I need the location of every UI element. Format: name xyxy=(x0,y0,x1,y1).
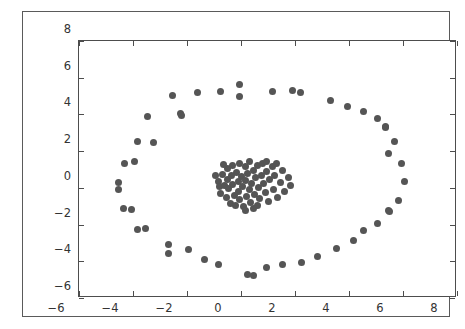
scatter-point xyxy=(263,264,270,271)
x-tick-mark xyxy=(79,291,80,296)
x-tick-mark xyxy=(187,291,188,296)
scatter-point xyxy=(201,256,208,263)
scatter-point xyxy=(128,206,135,213)
y-tick-label: 0 xyxy=(64,169,71,183)
y-tick-mark xyxy=(79,41,84,42)
scatter-point xyxy=(285,174,292,181)
scatter-point xyxy=(217,88,224,95)
y-tick-mark xyxy=(450,114,455,115)
scatter-point xyxy=(287,182,294,189)
scatter-point xyxy=(212,172,219,179)
scatter-point xyxy=(327,97,334,104)
scatter-point xyxy=(242,207,249,214)
scatter-point xyxy=(281,188,288,195)
y-tick-mark xyxy=(450,298,455,299)
scatter-point xyxy=(298,259,305,266)
x-tick-mark xyxy=(295,41,296,46)
x-tick-mark xyxy=(349,291,350,296)
scatter-point xyxy=(314,253,321,260)
x-tick-mark xyxy=(457,41,458,46)
y-tick-mark xyxy=(450,261,455,262)
scatter-point xyxy=(333,245,340,252)
scatter-point xyxy=(120,205,127,212)
x-tick-mark xyxy=(187,41,188,46)
scatter-point xyxy=(165,250,172,257)
x-tick-label: 6 xyxy=(376,301,383,315)
scatter-point xyxy=(262,189,269,196)
x-tick-mark xyxy=(241,291,242,296)
y-tick-mark xyxy=(79,78,84,79)
scatter-point xyxy=(374,220,381,227)
scatter-point xyxy=(185,246,192,253)
y-tick-label: 4 xyxy=(64,95,71,109)
scatter-point xyxy=(269,88,276,95)
figure-canvas: −6−4−202468 −6−4−202468 xyxy=(0,0,465,329)
scatter-point xyxy=(178,112,185,119)
x-tick-mark xyxy=(403,41,404,46)
x-tick-mark xyxy=(133,291,134,296)
y-tick-mark xyxy=(450,41,455,42)
scatter-point xyxy=(344,103,351,110)
scatter-point xyxy=(239,183,246,190)
scatter-point xyxy=(250,272,257,279)
x-tick-label: −2 xyxy=(156,301,173,315)
scatter-point xyxy=(374,115,381,122)
scatter-point xyxy=(277,179,284,186)
y-tick-label: −4 xyxy=(54,242,71,256)
scatter-point xyxy=(360,108,367,115)
scatter-point xyxy=(360,227,367,234)
scatter-point xyxy=(297,89,304,96)
y-tick-mark xyxy=(450,188,455,189)
scatter-point xyxy=(263,158,270,165)
scatter-point xyxy=(385,150,392,157)
x-tick-label: −4 xyxy=(102,301,119,315)
x-tick-label: 4 xyxy=(322,301,329,315)
x-tick-mark xyxy=(403,291,404,296)
y-tick-label: 8 xyxy=(64,22,71,36)
scatter-point xyxy=(274,194,281,201)
plot-axes xyxy=(78,40,456,297)
scatter-point xyxy=(169,92,176,99)
scatter-point xyxy=(386,208,393,215)
scatter-point xyxy=(131,158,138,165)
x-tick-label: 0 xyxy=(214,301,221,315)
x-tick-label: −6 xyxy=(48,301,65,315)
scatter-point xyxy=(401,178,408,185)
y-tick-label: 6 xyxy=(64,59,71,73)
scatter-point xyxy=(256,195,263,202)
scatter-point xyxy=(391,138,398,145)
scatter-point xyxy=(236,81,243,88)
scatter-point xyxy=(382,124,389,131)
y-tick-label: 2 xyxy=(64,132,71,146)
scatter-point xyxy=(165,241,172,248)
scatter-point xyxy=(271,172,278,179)
x-tick-mark xyxy=(349,41,350,46)
scatter-point xyxy=(273,160,280,167)
y-tick-mark xyxy=(79,188,84,189)
scatter-point xyxy=(279,261,286,268)
scatter-point xyxy=(265,198,272,205)
y-tick-mark xyxy=(450,151,455,152)
scatter-point xyxy=(350,237,357,244)
scatter-point xyxy=(215,261,222,268)
x-tick-mark xyxy=(241,41,242,46)
scatter-point xyxy=(398,160,405,167)
scatter-point xyxy=(142,225,149,232)
scatter-point xyxy=(134,138,141,145)
y-tick-mark xyxy=(450,225,455,226)
y-tick-label: −2 xyxy=(54,206,71,220)
scatter-point xyxy=(115,179,122,186)
scatter-points-layer xyxy=(79,41,455,296)
scatter-point xyxy=(144,113,151,120)
y-tick-mark xyxy=(79,114,84,115)
x-tick-mark xyxy=(133,41,134,46)
scatter-point xyxy=(395,197,402,204)
scatter-point xyxy=(289,87,296,94)
scatter-point xyxy=(236,93,243,100)
scatter-point xyxy=(250,205,257,212)
y-tick-label: −6 xyxy=(54,279,71,293)
y-tick-mark xyxy=(79,261,84,262)
scatter-point xyxy=(115,186,122,193)
x-tick-label: 2 xyxy=(268,301,275,315)
scatter-point xyxy=(279,167,286,174)
